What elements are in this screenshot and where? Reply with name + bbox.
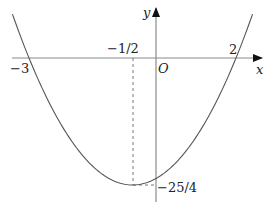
x-axis-label: x (256, 63, 263, 76)
chart-canvas (0, 0, 272, 212)
root-left-label: −3 (10, 62, 29, 75)
vertex-y-label: −25/4 (157, 181, 197, 194)
parabola-curve (12, 14, 252, 185)
root-right-label: 2 (229, 43, 237, 56)
parabola-figure: y x O −3 2 −1/2 −25/4 (0, 0, 272, 212)
origin-label: O (158, 62, 169, 75)
y-axis-label: y (143, 6, 150, 19)
vertex-x-label: −1/2 (107, 42, 139, 55)
